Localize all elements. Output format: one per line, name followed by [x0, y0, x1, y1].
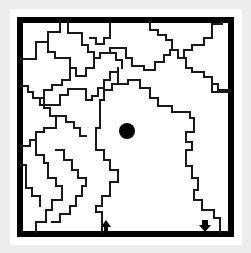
maze-walls	[26, 150, 86, 232]
maze-walls	[96, 68, 230, 232]
arrow-down-icon	[199, 220, 211, 232]
maze-diagram	[0, 0, 251, 253]
maze-walls	[21, 21, 120, 175]
goal-dot	[119, 123, 135, 139]
